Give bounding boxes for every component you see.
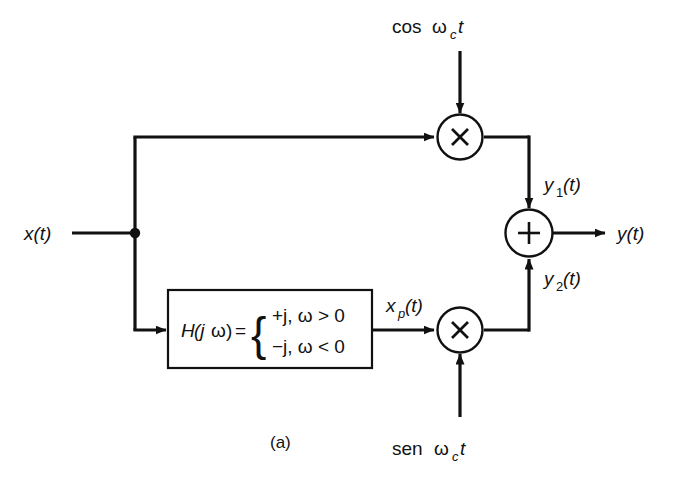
- xp-base: x: [385, 295, 397, 316]
- y2-base: y: [542, 268, 555, 289]
- hilbert-output-signal-label: x p (t): [385, 295, 423, 321]
- y1-base: y: [542, 174, 555, 195]
- input-signal-label: x(t): [23, 223, 51, 244]
- filter-arg-omega: ω: [211, 320, 226, 341]
- figure-caption: (a): [270, 433, 291, 452]
- filter-arg-open: (j: [194, 320, 205, 341]
- cos-prefix: cos: [392, 16, 422, 37]
- filter-name: H: [181, 320, 195, 341]
- summing-junction: [506, 210, 553, 257]
- xp-subscript: p: [397, 306, 405, 321]
- output-signal-label: y(t): [615, 223, 644, 244]
- cos-omega: ω: [432, 16, 447, 37]
- cos-omega-subscript: c: [450, 27, 457, 42]
- filter-brace: {: [251, 308, 266, 360]
- filter-arg-close: ): [226, 320, 232, 341]
- diagram-canvas: x(t) y(t) cos ω c t sen ω c t y 1 (t) y …: [0, 0, 683, 484]
- sen-omega-subscript: c: [452, 449, 459, 464]
- sen-omega: ω: [434, 438, 449, 459]
- sen-time-var: t: [460, 438, 466, 459]
- multiplier-top: [438, 115, 483, 160]
- cos-time-var: t: [458, 16, 464, 37]
- branch-node-dot: [130, 228, 140, 238]
- filter-case-negative: −j, ω < 0: [272, 336, 345, 357]
- block-diagram-figure: x(t) y(t) cos ω c t sen ω c t y 1 (t) y …: [0, 0, 683, 484]
- y2-tail: (t): [563, 268, 581, 289]
- sen-prefix: sen: [392, 438, 423, 459]
- y1-tail: (t): [563, 174, 581, 195]
- sen-carrier-label: sen ω c t: [392, 438, 466, 464]
- xp-tail: (t): [405, 295, 423, 316]
- upper-branch-signal-label: y 1 (t): [542, 174, 581, 200]
- filter-case-positive: +j, ω > 0: [272, 305, 345, 326]
- cos-carrier-label: cos ω c t: [392, 16, 464, 42]
- multiplier-bottom: [438, 308, 483, 353]
- filter-equals: =: [235, 320, 246, 341]
- lower-branch-signal-label: y 2 (t): [542, 268, 581, 294]
